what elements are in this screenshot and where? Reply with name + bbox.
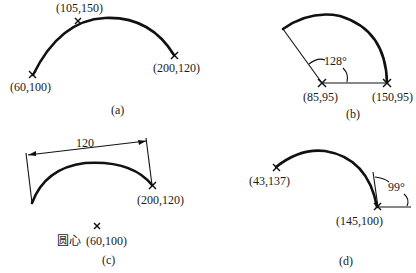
chord-length-label: 120: [76, 137, 94, 149]
angle-arc: [309, 59, 325, 64]
cross-marker-icon: [149, 182, 156, 189]
cross-marker-icon: [171, 52, 178, 59]
angle-arc: [404, 194, 408, 206]
point-label: (60,100): [10, 81, 51, 93]
point-label: (200,120): [153, 62, 200, 74]
diagram-canvas: [0, 0, 416, 273]
angle-arc: [375, 177, 389, 182]
arc-c: [32, 163, 152, 203]
radius-line: [283, 29, 322, 83]
figure-c: [26, 138, 156, 229]
extension-line: [26, 153, 32, 203]
point-label: (105,150): [56, 2, 103, 14]
figure-caption: (b): [346, 108, 360, 120]
cross-marker-icon: [75, 18, 81, 24]
figure-b: [283, 15, 391, 87]
arc-b: [283, 15, 387, 83]
center-label: (85,95): [303, 91, 338, 103]
end-label: (200,120): [137, 194, 184, 206]
center-cross-icon: [94, 223, 100, 229]
cross-marker-icon: [29, 71, 36, 78]
angle-arc: [343, 68, 348, 82]
end-label: (145,100): [336, 215, 383, 227]
start-label: (150,95): [372, 91, 413, 103]
center-label: (60,100): [86, 235, 127, 247]
center-prefix-label: 圆心: [57, 235, 81, 247]
angle-label: 128°: [324, 55, 347, 67]
angle-label: 99°: [388, 181, 405, 193]
figure-caption: (a): [111, 104, 124, 116]
arc-d: [276, 151, 377, 207]
figure-caption: (d): [339, 255, 353, 267]
start-label: (43,137): [249, 175, 290, 187]
figure-caption: (c): [102, 254, 115, 266]
